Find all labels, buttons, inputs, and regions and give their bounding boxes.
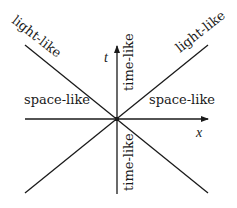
t-axis-label: t	[104, 50, 109, 65]
light-like-left-label: light-like	[9, 13, 65, 61]
light-cone-diagram: t x light-like light-like space-like spa…	[0, 0, 237, 208]
space-like-right-label: space-like	[149, 92, 215, 107]
space-like-left-label: space-like	[24, 92, 90, 107]
x-axis-label: x	[195, 125, 203, 140]
time-like-top-label: time-like	[121, 33, 136, 91]
time-like-bottom-label: time-like	[121, 133, 136, 191]
origin-point	[115, 117, 119, 121]
light-like-right-label: light-like	[173, 7, 229, 55]
